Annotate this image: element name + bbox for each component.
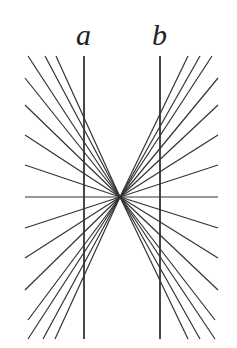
ray-line xyxy=(120,56,212,197)
ray-line xyxy=(120,197,215,339)
ray-line xyxy=(120,197,215,320)
ray-line xyxy=(28,56,120,197)
ray-line xyxy=(25,105,120,197)
hering-illusion-figure xyxy=(0,0,237,348)
ray-line xyxy=(25,78,120,197)
ray-line xyxy=(28,197,120,339)
ray-line xyxy=(25,197,120,290)
ray-line xyxy=(120,165,218,197)
ray-line xyxy=(120,197,218,290)
ray-line xyxy=(120,105,218,197)
ray-line xyxy=(28,197,120,320)
